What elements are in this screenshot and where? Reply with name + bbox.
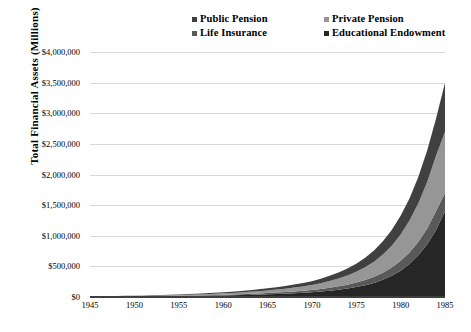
- legend-item-life-insurance: Life Insurance: [192, 28, 324, 39]
- legend-label: Educational Endowment: [332, 28, 445, 39]
- legend-swatch-icon: [192, 17, 197, 22]
- legend-swatch-icon: [192, 31, 197, 36]
- y-tick-label: $0: [72, 292, 81, 302]
- legend-swatch-icon: [324, 31, 329, 36]
- legend-swatch-icon: [324, 17, 329, 22]
- y-tick-label: $3,000,000: [42, 108, 80, 118]
- x-tick-label: 1970: [303, 300, 320, 310]
- x-axis-line: [90, 296, 445, 298]
- y-tick-label: $500,000: [48, 261, 80, 271]
- y-tick-label: $2,000,000: [42, 170, 80, 180]
- stacked-area-chart: Public Pension Private Pension Life Insu…: [0, 0, 471, 332]
- legend-item-private-pension: Private Pension: [324, 14, 442, 25]
- x-axis-tick-labels: 194519501955196019651970197519801985: [90, 300, 445, 316]
- x-tick-label: 1980: [392, 300, 409, 310]
- x-tick-label: 1985: [437, 300, 454, 310]
- chart-legend: Public Pension Private Pension Life Insu…: [192, 12, 442, 40]
- legend-item-public-pension: Public Pension: [192, 14, 324, 25]
- x-tick-label: 1960: [215, 300, 232, 310]
- x-tick-label: 1945: [82, 300, 99, 310]
- area-series-group: [90, 52, 445, 297]
- x-tick-label: 1955: [170, 300, 187, 310]
- y-tick-label: $1,000,000: [42, 231, 80, 241]
- y-tick-label: $2,500,000: [42, 139, 80, 149]
- x-tick-label: 1975: [348, 300, 365, 310]
- y-tick-label: $1,500,000: [42, 200, 80, 210]
- legend-item-educational-endowment: Educational Endowment: [324, 28, 442, 39]
- x-tick-label: 1950: [126, 300, 143, 310]
- legend-label: Public Pension: [200, 14, 268, 25]
- legend-label: Private Pension: [332, 14, 404, 25]
- y-tick-label: $3,500,000: [42, 78, 80, 88]
- y-tick-label: $4,000,000: [42, 47, 80, 57]
- y-axis-tick-labels: $0$500,000$1,000,000$1,500,000$2,000,000…: [0, 52, 86, 297]
- legend-label: Life Insurance: [200, 28, 267, 39]
- plot-area: [90, 52, 445, 297]
- x-tick-label: 1965: [259, 300, 276, 310]
